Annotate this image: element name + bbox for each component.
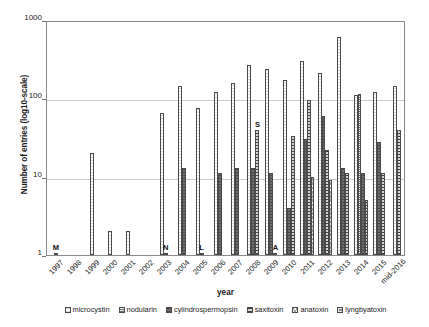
bar-group-2005: L <box>191 22 209 255</box>
bar-group-mid-2016 <box>388 22 406 255</box>
bar-group-1999 <box>83 22 101 255</box>
bar-2004-cylindrospermopsin <box>182 168 186 255</box>
legend-label-saxitoxin: saxitoxin <box>255 305 284 314</box>
bar-2013-saxitoxin <box>345 173 349 255</box>
bar-2011-anatoxin <box>311 177 315 255</box>
bar-group-2014 <box>352 22 370 255</box>
bar-group-2007 <box>227 22 245 255</box>
bar-group-2003: N <box>155 22 173 255</box>
legend-swatch-saxitoxin <box>247 307 253 313</box>
bar-group-2000 <box>101 22 119 255</box>
y-tick-mark-1 <box>42 256 46 257</box>
plot-area: MNLSA <box>46 21 405 256</box>
legend-label-microcystin: microcystin <box>73 305 110 314</box>
chart-legend: microcystinnodularincylindrospermopsinsa… <box>46 305 405 314</box>
bar-2000-microcystin <box>108 231 112 255</box>
bar-2005-lyngbyatoxin: L <box>200 253 204 255</box>
legend-label-cylindrospermopsin: cylindrospermopsin <box>174 305 238 314</box>
legend-item-cylindrospermopsin: cylindrospermopsin <box>166 305 238 314</box>
bar-group-2002 <box>137 22 155 255</box>
bar-series-container: MNLSA <box>47 22 404 255</box>
x-axis-title: year <box>46 288 405 297</box>
y-tick-100: 100 <box>0 91 42 100</box>
bar-group-2013 <box>334 22 352 255</box>
legend-label-nodularin: nodularin <box>127 305 157 314</box>
annotation-M: M <box>53 244 59 252</box>
y-tick-10: 10 <box>0 170 42 179</box>
bar-mid-2016-saxitoxin <box>397 130 401 255</box>
bar-group-1997: M <box>47 22 65 255</box>
bar-group-2006 <box>209 22 227 255</box>
legend-item-nodularin: nodularin <box>119 305 157 314</box>
bar-2014-saxitoxin <box>365 200 369 255</box>
bar-2005-microcystin <box>196 108 200 255</box>
legend-item-anatoxin: anatoxin <box>292 305 328 314</box>
bar-2012-anatoxin <box>329 180 333 255</box>
x-axis-tick-labels: 1997199819992000200120022003200420052006… <box>46 258 405 304</box>
legend-label-anatoxin: anatoxin <box>300 305 328 314</box>
bar-group-2011 <box>298 22 316 255</box>
legend-swatch-anatoxin <box>292 307 298 313</box>
bar-2003-microcystin <box>160 113 164 255</box>
bar-2008-saxitoxin: S <box>255 130 259 255</box>
annotation-L: L <box>199 244 204 252</box>
legend-swatch-microcystin <box>65 307 71 313</box>
bar-2015-saxitoxin <box>381 173 385 255</box>
annotation-S: S <box>255 121 260 129</box>
bar-1999-microcystin <box>90 153 94 255</box>
bar-2009-anatoxin: A <box>273 253 277 255</box>
bar-2001-microcystin <box>126 231 130 255</box>
bar-1997-microcystin: M <box>54 253 58 255</box>
legend-swatch-lyngbyatoxin <box>337 307 343 313</box>
legend-label-lyngbyatoxin: lyngbyatoxin <box>345 305 386 314</box>
bar-group-1998 <box>65 22 83 255</box>
annotation-N: N <box>163 244 168 252</box>
bar-2003-nodularin: N <box>164 253 168 255</box>
bar-group-2004 <box>173 22 191 255</box>
annotation-A: A <box>273 244 278 252</box>
legend-item-lyngbyatoxin: lyngbyatoxin <box>337 305 386 314</box>
bar-2010-saxitoxin <box>291 136 295 255</box>
bar-group-2010 <box>280 22 298 255</box>
legend-swatch-cylindrospermopsin <box>166 307 172 313</box>
bar-group-2015 <box>370 22 388 255</box>
bar-group-2009: A <box>262 22 280 255</box>
bar-group-2001 <box>119 22 137 255</box>
bar-group-2012 <box>316 22 334 255</box>
legend-item-saxitoxin: saxitoxin <box>247 305 284 314</box>
y-tick-1000: 1000 <box>0 13 42 22</box>
y-axis-title: Number of entries (log10-scale) <box>20 45 29 225</box>
bar-2006-cylindrospermopsin <box>218 173 222 255</box>
legend-swatch-nodularin <box>119 307 125 313</box>
legend-item-microcystin: microcystin <box>65 305 110 314</box>
chart-figure: Number of entries (log10-scale) 11010010… <box>0 0 429 327</box>
bar-group-2008: S <box>244 22 262 255</box>
bar-2007-cylindrospermopsin <box>235 168 239 255</box>
y-tick-1: 1 <box>0 248 42 257</box>
